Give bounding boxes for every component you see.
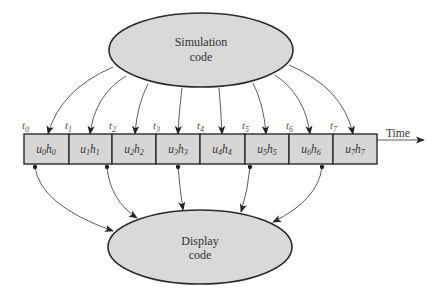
time-label-2: t2 [109, 119, 116, 134]
time-label-1: t1 [65, 119, 72, 134]
time-label-0: t0 [22, 119, 29, 134]
time-axis-label: Time [386, 127, 410, 139]
simulation-code-label-line1: Simulation [175, 35, 228, 49]
display-code-label-line2: code [189, 248, 212, 262]
timestep-cells: u0h0 u1h1 u2h2 u3h3 u4h4 u5h5 u6h6 u7h7 [24, 134, 377, 164]
time-label-3: t3 [153, 119, 160, 134]
write-arrow-5 [253, 83, 266, 134]
read-arrow-3 [178, 167, 183, 210]
time-label-5: t5 [242, 119, 249, 134]
simulation-code-label-line2: code [190, 50, 213, 64]
write-arrow-3 [178, 88, 182, 134]
read-arrow-5 [241, 167, 250, 212]
read-arrow-0 [35, 167, 113, 231]
display-code-node: Display code [108, 210, 292, 284]
time-label-4: t4 [197, 119, 204, 134]
write-arrow-1 [90, 76, 126, 134]
time-label-6: t6 [286, 119, 293, 134]
write-arrow-4 [219, 88, 222, 134]
read-arrow-6 [273, 167, 322, 222]
time-axis: Time [377, 127, 424, 140]
time-label-7: t7 [330, 119, 338, 134]
display-code-label-line1: Display [181, 234, 218, 248]
simulation-display-diagram: Simulation code t0 t1 t2 t3 t4 t5 t6 t7 … [0, 0, 441, 296]
write-arrow-2 [135, 84, 148, 134]
simulation-code-node: Simulation code [109, 13, 293, 87]
write-arrow-0 [48, 67, 113, 134]
time-labels: t0 t1 t2 t3 t4 t5 t6 t7 [22, 119, 338, 134]
read-arrow-1 [107, 167, 137, 218]
